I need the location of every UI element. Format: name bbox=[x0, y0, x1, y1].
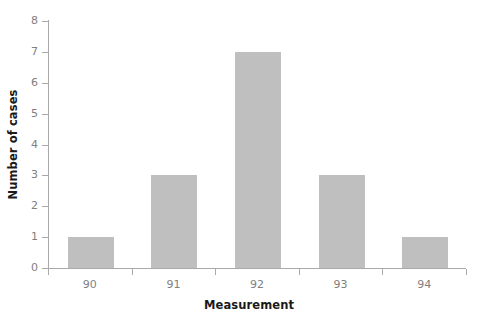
y-axis-tick-label: 8 bbox=[18, 15, 38, 26]
y-axis-tick bbox=[42, 145, 48, 146]
bar bbox=[151, 175, 197, 268]
bar bbox=[319, 175, 365, 268]
y-axis-tick-label: 1 bbox=[18, 231, 38, 242]
y-axis-tick-label: 5 bbox=[18, 108, 38, 119]
x-axis-tick bbox=[299, 269, 300, 275]
y-axis-tick bbox=[42, 175, 48, 176]
x-axis-line bbox=[48, 268, 466, 269]
x-axis-tick bbox=[215, 269, 216, 275]
bar bbox=[68, 237, 114, 268]
y-axis-tick-label: 4 bbox=[18, 139, 38, 150]
x-axis-tick bbox=[48, 269, 49, 275]
y-axis-tick-label: 6 bbox=[18, 77, 38, 88]
plot-area bbox=[49, 21, 466, 268]
x-axis-tick bbox=[132, 269, 133, 275]
x-axis-tick bbox=[466, 269, 467, 275]
y-axis-tick bbox=[42, 21, 48, 22]
y-axis-tick-label: 2 bbox=[18, 200, 38, 211]
x-axis-tick-label: 91 bbox=[153, 279, 193, 290]
bar bbox=[235, 52, 281, 268]
x-axis-tick-label: 93 bbox=[321, 279, 361, 290]
y-axis-tick-label: 0 bbox=[18, 262, 38, 273]
x-axis-tick bbox=[382, 269, 383, 275]
x-axis-tick-label: 90 bbox=[70, 279, 110, 290]
y-axis-tick bbox=[42, 206, 48, 207]
bar-chart: 012345678 9091929394 Measurement Number … bbox=[0, 0, 498, 327]
x-axis-tick-label: 94 bbox=[404, 279, 444, 290]
x-axis-tick-label: 92 bbox=[237, 279, 277, 290]
y-axis-title: Number of cases bbox=[6, 21, 20, 268]
y-axis-tick bbox=[42, 237, 48, 238]
y-axis-tick-label: 7 bbox=[18, 46, 38, 57]
bar bbox=[402, 237, 448, 268]
y-axis-tick bbox=[42, 114, 48, 115]
y-axis-tick-label: 3 bbox=[18, 169, 38, 180]
y-axis-tick bbox=[42, 83, 48, 84]
x-axis-title: Measurement bbox=[0, 298, 498, 312]
y-axis-tick bbox=[42, 52, 48, 53]
